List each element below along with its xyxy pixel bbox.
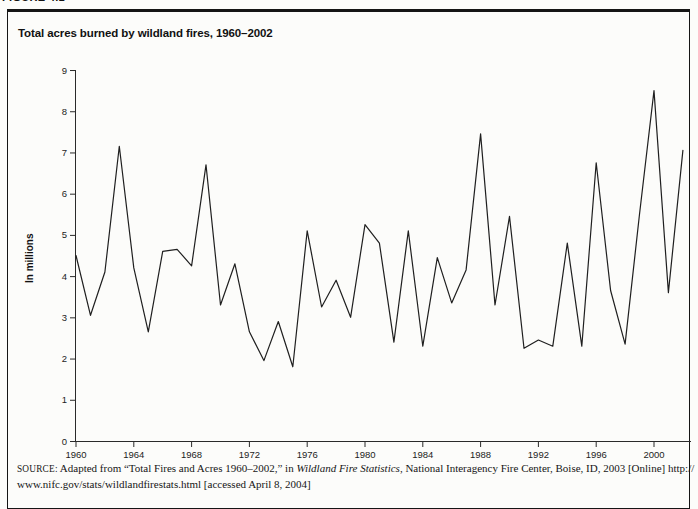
y-tick-label: 3 <box>62 312 67 323</box>
y-tick-label: 8 <box>62 106 67 117</box>
y-tick-label: 7 <box>62 147 67 158</box>
y-tick-label: 4 <box>62 271 67 282</box>
y-tick-label: 2 <box>62 353 67 364</box>
source-line-2: www.nifc.gov/stats/wildlandfirestats.htm… <box>17 477 689 492</box>
source-text-1: Adapted from “Total Fires and Acres 1960… <box>58 462 297 474</box>
y-tick-label: 6 <box>62 188 67 199</box>
y-axis-title: In millions <box>24 218 35 298</box>
x-tick-label: 1968 <box>181 449 202 460</box>
source-line-1: SOURCE: Adapted from “Total Fires and Ac… <box>17 461 689 477</box>
x-tick-label: 1980 <box>354 449 375 460</box>
x-tick-label: 1984 <box>412 449 433 460</box>
source-text-2: , National Interagency Fire Center, Bois… <box>400 462 694 474</box>
y-tick-label: 5 <box>62 229 67 240</box>
source-note: SOURCE: Adapted from “Total Fires and Ac… <box>17 461 689 492</box>
x-tick-label: 1960 <box>65 449 86 460</box>
acres-burned-line-series <box>76 91 683 367</box>
x-tick-label: 1996 <box>586 449 607 460</box>
x-tick-label: 1992 <box>528 449 549 460</box>
y-tick-label: 0 <box>62 436 67 447</box>
y-tick-label: 9 <box>62 65 67 76</box>
x-tick-label: 2000 <box>643 449 664 460</box>
x-tick-label: 1988 <box>470 449 491 460</box>
x-tick-label: 1976 <box>297 449 318 460</box>
y-tick-label: 1 <box>62 394 67 405</box>
source-text-italic: Wildland Fire Statistics <box>296 462 399 474</box>
source-label: SOURCE: <box>17 464 58 474</box>
x-tick-label: 1964 <box>123 449 144 460</box>
x-tick-label: 1972 <box>239 449 260 460</box>
